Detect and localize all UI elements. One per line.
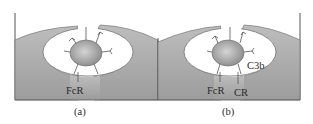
caption-a: (a) <box>74 106 86 118</box>
label-c3b: C3b <box>247 60 265 71</box>
caption-b: (b) <box>222 106 235 118</box>
particle <box>212 40 244 66</box>
label-fcr-a: FcR <box>66 85 84 96</box>
particle <box>70 40 102 66</box>
label-cr: CR <box>234 87 248 98</box>
panel-a: FcR (a) <box>15 13 158 118</box>
panel-b: C3b FcR CR (b) <box>158 13 300 118</box>
phagocytosis-diagram: FcR (a) C3b FcR CR (b) <box>0 0 313 124</box>
membrane-opening <box>78 20 98 38</box>
membrane-opening <box>221 20 241 38</box>
label-fcr-b: FcR <box>207 85 225 96</box>
